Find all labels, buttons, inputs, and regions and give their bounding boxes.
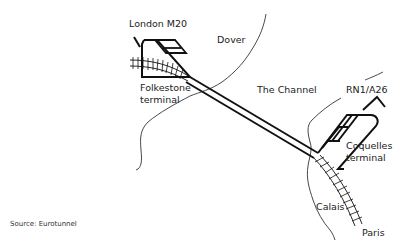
label-coquelles-terminal-1: Coquelles [346,140,392,151]
label-folkestone-terminal-2: terminal [140,94,180,105]
label-folkestone-terminal-1: Folkestone [140,82,191,93]
label-london-m20: London M20 [129,18,187,29]
label-rn1-a26: RN1/A26 [346,84,388,95]
label-dover: Dover [217,34,246,45]
label-the-channel: The Channel [257,84,317,95]
source-caption: Source: Eurotunnel [10,220,77,228]
label-paris: Paris [362,227,385,238]
label-calais: Calais [316,201,345,212]
label-coquelles-terminal-2: terminal [346,152,386,163]
